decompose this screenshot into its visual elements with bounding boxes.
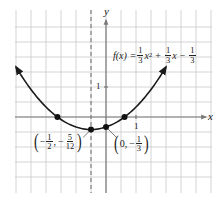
fraction: 13 bbox=[165, 46, 171, 64]
yintercept-label: ( 0 , − 13 ) bbox=[113, 132, 150, 155]
denominator: 3 bbox=[137, 56, 143, 65]
denominator: 12 bbox=[65, 142, 76, 151]
graph-plot bbox=[0, 0, 224, 200]
data-point-dot bbox=[88, 127, 94, 133]
denominator: 3 bbox=[136, 144, 142, 153]
minus-sign: − bbox=[40, 136, 46, 147]
comma: , bbox=[125, 138, 128, 149]
comma: , bbox=[54, 136, 57, 147]
function-formula: f(x) = 13 x2 + 13 x − 13 bbox=[113, 46, 197, 64]
fraction: 13 bbox=[189, 46, 195, 64]
data-point-dot bbox=[103, 124, 109, 130]
data-point-dot bbox=[54, 114, 60, 120]
open-paren: ( bbox=[34, 130, 39, 153]
fraction: 13 bbox=[137, 46, 143, 64]
exponent: 2 bbox=[149, 51, 153, 59]
denominator: 3 bbox=[165, 56, 171, 65]
data-point-dot bbox=[122, 114, 128, 120]
minus-sign: − bbox=[129, 138, 135, 149]
x-tick-label: 1 bbox=[134, 122, 139, 131]
vertex-label: ( − 12 , − 512 ) bbox=[33, 130, 83, 153]
x-axis-label: x bbox=[208, 111, 213, 122]
formula-lhs: f(x) = bbox=[113, 50, 136, 61]
close-paren: ) bbox=[77, 130, 82, 153]
fraction: 512 bbox=[65, 133, 76, 151]
grid-lines bbox=[15, 10, 212, 193]
variable: x bbox=[172, 50, 176, 61]
minus-sign: − bbox=[58, 136, 64, 147]
fraction: 13 bbox=[136, 135, 142, 153]
plus-operator: + bbox=[155, 50, 161, 61]
y-axis-label: y bbox=[104, 6, 109, 17]
fraction: 12 bbox=[46, 133, 52, 151]
y-tick-label: 1 bbox=[96, 82, 101, 91]
denominator: 3 bbox=[189, 56, 195, 65]
close-paren: ) bbox=[144, 132, 149, 155]
denominator: 2 bbox=[46, 142, 52, 151]
open-paren: ( bbox=[114, 132, 119, 155]
minus-operator: − bbox=[180, 50, 186, 61]
